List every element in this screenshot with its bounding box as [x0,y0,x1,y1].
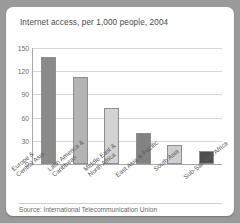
y-tick-label: 30 [9,137,29,144]
source-divider [18,203,222,204]
y-tick-label: 90 [9,91,29,98]
y-tick-label: 150 [9,45,29,52]
y-axis-tick-labels: 0306090120150 [6,48,29,164]
y-tick-label: 120 [9,68,29,75]
chart-title: Internet access, per 1,000 people, 2004 [20,18,168,27]
source-note: Source: International Telecommunication … [19,206,157,213]
bar-series [33,48,222,164]
bar [41,57,56,164]
chart-card: Internet access, per 1,000 people, 2004 … [6,7,234,216]
y-tick-label: 60 [9,114,29,121]
x-axis-tick-labels: Europe & Central AsiaLatin America & Car… [6,165,234,207]
